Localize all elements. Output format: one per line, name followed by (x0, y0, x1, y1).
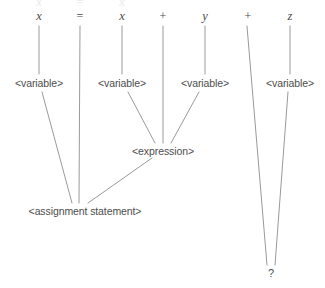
token-z: z (288, 10, 293, 23)
edge-expression-to-assignment (88, 158, 152, 203)
parse-tree-diagram: x = x x = x + y + z <variable> <variable… (0, 0, 325, 288)
token-plus-2: + (245, 10, 252, 22)
node-assignment-statement: <assignment statement> (29, 206, 142, 217)
edge-variable-to-unknown (275, 92, 288, 265)
edge-variable-to-expression (128, 92, 155, 143)
node-expression: <expression> (132, 146, 194, 157)
edge-variable-to-expression (171, 92, 199, 143)
node-variable-2: <variable> (98, 78, 146, 89)
token-x-lhs: x (36, 10, 42, 23)
token-plus-1: + (160, 10, 167, 22)
node-variable-4: <variable> (266, 78, 314, 89)
edge-equals-to-assignment (79, 26, 80, 203)
node-variable-3: <variable> (181, 78, 229, 89)
token-y: y (202, 10, 208, 23)
edge-variable-to-assignment (42, 92, 72, 203)
edge-plus-to-unknown (247, 26, 267, 265)
node-unknown-question-mark: ? (268, 268, 274, 279)
token-x-rhs: x (119, 10, 125, 23)
node-variable-1: <variable> (15, 78, 63, 89)
token-equals: = (77, 10, 84, 22)
